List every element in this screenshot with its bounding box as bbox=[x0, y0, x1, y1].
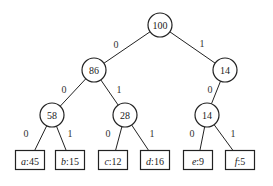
leaf-label: d:16 bbox=[146, 155, 164, 166]
leaf-node-a: a:45 bbox=[16, 151, 45, 170]
leaf-node-f: f:5 bbox=[226, 151, 255, 170]
edge-n14a-n14b: 0 bbox=[208, 81, 221, 104]
edge-bit-label: 0 bbox=[114, 39, 119, 50]
edge-n14b-e: 0 bbox=[190, 127, 205, 151]
leaf-label: b:15 bbox=[61, 155, 79, 166]
leaf-node-c: c:12 bbox=[99, 151, 128, 170]
edge-n14b-f: 1 bbox=[214, 125, 235, 151]
huffman-tree: 010100101011008614582814a:45b:15c:12d:16… bbox=[0, 0, 273, 186]
leaf-label: f:5 bbox=[235, 155, 246, 166]
edge-n86-n28: 1 bbox=[101, 80, 122, 105]
internal-node: 86 bbox=[82, 58, 106, 82]
edge-root-n14a: 1 bbox=[170, 32, 215, 63]
internal-node: 58 bbox=[40, 103, 64, 127]
edge-n28-d: 1 bbox=[132, 125, 155, 151]
edge-bit-label: 1 bbox=[150, 128, 155, 139]
edge-bit-label: 0 bbox=[24, 128, 29, 139]
edge-bit-label: 0 bbox=[190, 128, 195, 139]
internal-node: 100 bbox=[148, 13, 172, 37]
leaf-node-b: b:15 bbox=[56, 151, 85, 170]
node-weight: 14 bbox=[202, 110, 212, 121]
leaf-node-e: e:9 bbox=[184, 151, 213, 170]
internal-node: 14 bbox=[195, 103, 219, 127]
edge-bit-label: 1 bbox=[200, 38, 205, 49]
node-weight: 14 bbox=[220, 65, 230, 76]
edge-bit-label: 0 bbox=[106, 128, 111, 139]
internal-node: 28 bbox=[113, 103, 137, 127]
edge-n86-n58: 0 bbox=[60, 79, 86, 106]
leaf-label: e:9 bbox=[192, 155, 204, 166]
leaf-node-d: d:16 bbox=[141, 151, 170, 170]
internal-node: 14 bbox=[213, 58, 237, 82]
edge-bit-label: 1 bbox=[231, 128, 236, 139]
node-weight: 58 bbox=[47, 110, 57, 121]
leaf-label: a:45 bbox=[21, 155, 39, 166]
leaf-label: c:12 bbox=[104, 155, 121, 166]
edge-bit-label: 1 bbox=[117, 84, 122, 95]
node-weight: 86 bbox=[89, 65, 99, 76]
edge-bit-label: 0 bbox=[62, 84, 67, 95]
edge-n58-b: 1 bbox=[56, 126, 72, 150]
edge-n28-c: 0 bbox=[106, 127, 122, 151]
edge-bit-label: 0 bbox=[208, 84, 213, 95]
edge-root-n86: 0 bbox=[104, 32, 150, 63]
node-weight: 28 bbox=[120, 110, 130, 121]
edge-bit-label: 1 bbox=[68, 128, 73, 139]
edge-n58-a: 0 bbox=[24, 126, 47, 151]
node-weight: 100 bbox=[153, 20, 168, 31]
